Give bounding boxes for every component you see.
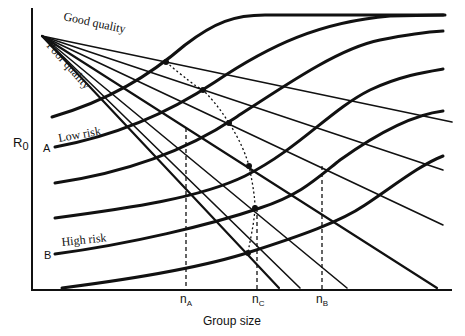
y-axis-label: R0: [13, 135, 29, 152]
tick-label-n-c: nC: [252, 292, 265, 308]
optimum-dot: [163, 59, 169, 65]
curve-3: [55, 31, 443, 183]
ray-2: [42, 36, 443, 170]
optimum-dot: [200, 87, 206, 93]
optimum-dot: [246, 163, 252, 169]
tick-label-n-b: nB: [316, 292, 328, 308]
curve-marker-a: A: [43, 142, 51, 154]
ray-4: [42, 36, 437, 288]
optimum-points: [163, 59, 258, 256]
optimum-dot: [226, 120, 232, 126]
curve-4: [55, 69, 443, 218]
curve-marker-b: B: [44, 249, 51, 261]
optimum-dot: [245, 250, 251, 256]
tick-label-n-a: nA: [180, 292, 193, 308]
x-axis-label: Group size: [203, 314, 261, 328]
group-size-diagram: Good quality Poor quality Low risk High …: [0, 0, 465, 336]
good-quality-label: Good quality: [62, 9, 127, 36]
curve-6: [62, 156, 443, 288]
